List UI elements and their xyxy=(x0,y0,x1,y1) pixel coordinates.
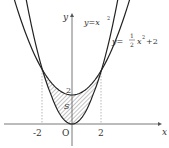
y-axis-label: y xyxy=(62,12,69,22)
equation-upper-frac-den: 2 xyxy=(130,41,134,48)
y-tick-2: 2 xyxy=(66,86,71,95)
equation-upper-frac-num: 1 xyxy=(130,32,134,39)
x-axis-label: x xyxy=(162,127,167,137)
x-axis-arrow-icon xyxy=(158,122,162,126)
equation-upper-exponent: 2 xyxy=(142,34,145,40)
equation-lower: y=x 2 xyxy=(83,15,110,27)
region-label-s: S xyxy=(64,102,70,111)
diagram-canvas: y x O -2 2 2 S y=x 2 y= 1 2 x 2 +2 xyxy=(0,0,169,148)
x-tick-neg2: -2 xyxy=(33,128,42,138)
equation-lower-text: y=x xyxy=(83,18,100,27)
y-axis-arrow-icon xyxy=(70,13,74,17)
origin-label: O xyxy=(62,128,69,138)
equation-upper-prefix: y= xyxy=(111,37,123,46)
equation-lower-exponent: 2 xyxy=(107,15,110,21)
equation-upper-suffix: +2 xyxy=(146,37,158,46)
x-tick-2: 2 xyxy=(98,128,104,138)
